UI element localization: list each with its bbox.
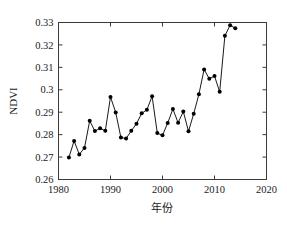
x-tick-label: 1990 [100,184,121,195]
data-point [124,136,128,140]
data-point [228,23,232,27]
x-tick-label: 2010 [204,184,225,195]
data-point [129,129,133,133]
data-point [109,95,113,99]
ndvi-time-series-chart: 0.260.270.280.290.30.310.320.33 19801990… [0,0,287,225]
data-point [233,26,237,30]
y-tick-label: 0.28 [35,129,53,140]
x-tick-label: 2020 [256,184,277,195]
data-point [93,129,97,133]
data-point [161,133,165,137]
y-tick-label: 0.32 [35,40,53,51]
x-tick-label: 2000 [152,184,173,195]
data-point [119,136,123,140]
data-point [72,139,76,143]
data-point [77,152,81,156]
data-point [150,94,154,98]
data-point [223,34,227,38]
data-point [218,90,222,94]
data-point [114,110,118,114]
y-tick-label: 0.3 [40,84,53,95]
y-tick-label: 0.31 [35,62,53,73]
y-axis-tick-labels: 0.260.270.280.290.30.310.320.33 [35,17,53,185]
data-point [145,108,149,112]
x-tick-label: 1980 [48,184,69,195]
y-tick-label: 0.33 [35,17,53,28]
data-point [155,131,159,135]
data-point [171,107,175,111]
y-tick-label: 0.27 [35,152,53,163]
y-axis-title: NDVI [7,87,19,115]
data-point [176,121,180,125]
data-point [213,74,217,78]
data-point [98,126,102,130]
data-point [140,111,144,115]
data-point [83,146,87,150]
x-axis-tick-labels: 19801990200020102020 [48,184,277,195]
ndvi-line [69,25,235,157]
chart-canvas: 0.260.270.280.290.30.310.320.33 19801990… [0,0,287,225]
y-axis-tick-marks [59,23,267,180]
data-point [202,67,206,71]
data-point [192,112,196,116]
y-tick-label: 0.29 [35,107,53,118]
data-point [88,119,92,123]
data-point [197,92,201,96]
data-point [181,110,185,114]
data-point [103,129,107,133]
plot-frame [59,23,267,180]
data-point [135,122,139,126]
data-point [207,77,211,81]
data-point [67,156,71,160]
data-point [166,121,170,125]
data-point [187,129,191,133]
ndvi-data-points [67,23,237,159]
x-axis-tick-marks [59,23,267,180]
x-axis-title: 年份 [151,201,173,214]
